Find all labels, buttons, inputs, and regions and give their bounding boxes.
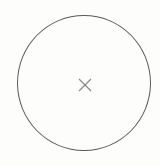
close-icon[interactable] [78,78,92,92]
canvas [0,0,160,166]
